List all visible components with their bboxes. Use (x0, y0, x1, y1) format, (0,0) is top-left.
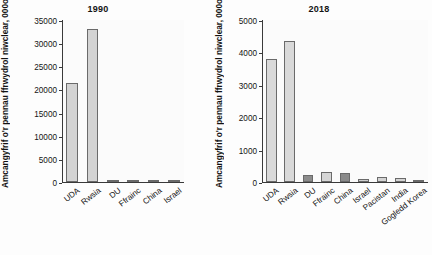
y-tick-1990-5000 (59, 160, 63, 161)
y-axis-title-left: Amcangyfrif o'r pennau ffrwydrol niwclea… (1, 18, 21, 188)
bar-1990-uda (66, 83, 78, 183)
y-tick-2018-0 (259, 183, 263, 184)
plot-area-1990: 05000100001500020000250003000035000 (62, 20, 184, 183)
x-axis-labels-1990: UDARwsiaDUFfraincChinaIsrael (62, 186, 184, 255)
y-tick-label-1990-10000: 10000 (34, 132, 57, 141)
chart-title-1990: 1990 (18, 4, 178, 14)
chart-panel-1990: 1990 Amcangyfrif o'r pennau ffrwydrol ni… (0, 0, 216, 255)
chart-panel-2018: 2018 Amcangyfrif o'r pennau ffrwydrol ni… (216, 0, 432, 255)
y-tick-2018-4000 (259, 53, 263, 54)
figure-root: 1990 Amcangyfrif o'r pennau ffrwydrol ni… (0, 0, 432, 255)
bar-group-2018 (262, 20, 428, 182)
y-tick-label-2018-3000: 3000 (239, 81, 257, 90)
y-tick-1990-20000 (59, 90, 63, 91)
y-tick-1990-10000 (59, 137, 63, 138)
y-tick-label-2018-2000: 2000 (239, 114, 257, 123)
y-tick-label-2018-1000: 1000 (239, 146, 257, 155)
y-tick-label-2018-4000: 4000 (239, 49, 257, 58)
y-tick-label-1990-25000: 25000 (34, 63, 57, 72)
y-tick-label-1990-5000: 5000 (39, 155, 57, 164)
y-tick-label-1990-15000: 15000 (34, 109, 57, 118)
y-tick-2018-1000 (259, 151, 263, 152)
bar-2018-uda (266, 59, 277, 182)
y-tick-1990-0 (59, 183, 63, 184)
y-tick-1990-25000 (59, 67, 63, 68)
y-tick-label-1990-0: 0 (52, 179, 57, 188)
y-tick-label-1990-20000: 20000 (34, 86, 57, 95)
plot-area-2018: 010002000300040005000 (262, 20, 428, 183)
bar-2018-rwsia (284, 41, 295, 182)
y-tick-1990-30000 (59, 44, 63, 45)
y-tick-label-1990-35000: 35000 (34, 17, 57, 26)
y-tick-label-1990-30000: 30000 (34, 40, 57, 49)
y-tick-2018-2000 (259, 118, 263, 119)
y-tick-label-2018-0: 0 (252, 179, 257, 188)
x-axis-labels-2018: UDARwsiaDUFfraincChinaIsraelPacistanIndi… (262, 186, 428, 255)
bar-1990-rwsia (87, 29, 99, 182)
y-tick-1990-35000 (59, 21, 63, 22)
y-tick-2018-5000 (259, 21, 263, 22)
y-axis-title-right: Amcangyfrif o'r pennau ffrwydrol niwclea… (215, 18, 235, 188)
x-tick-label-text: UDA (63, 186, 82, 204)
chart-title-2018: 2018 (234, 4, 404, 14)
y-tick-2018-3000 (259, 86, 263, 87)
bar-group-1990 (62, 20, 184, 182)
y-tick-1990-15000 (59, 114, 63, 115)
y-tick-label-2018-5000: 5000 (239, 17, 257, 26)
